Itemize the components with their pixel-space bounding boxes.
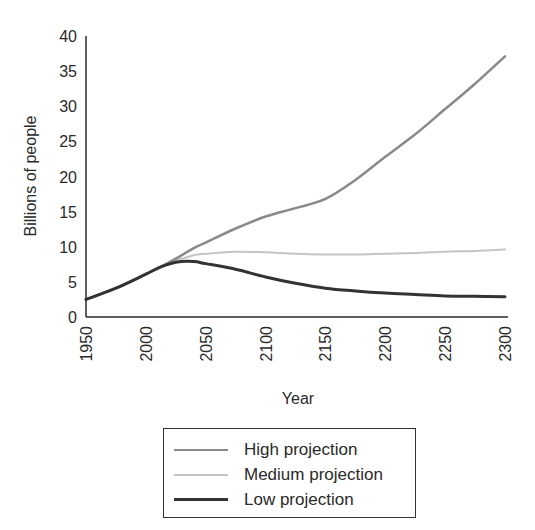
legend-label-medium: Medium projection [244, 462, 383, 487]
y-tick-label: 10 [59, 239, 77, 256]
x-tick-label: 1950 [78, 326, 95, 362]
y-tick-label: 15 [59, 204, 77, 221]
low-projection-line [86, 261, 505, 299]
high-projection-line [86, 56, 505, 299]
legend-item-high: High projection [174, 437, 405, 462]
y-tick-label: 25 [59, 133, 77, 150]
x-tick-label: 2050 [198, 326, 215, 362]
y-tick-label: 20 [59, 169, 77, 186]
x-axis-ticks: 19502000205021002150220022502300 [78, 326, 514, 362]
population-projection-chart: 0510152025303540 19502000205021002150220… [0, 0, 535, 420]
x-tick-label: 2000 [138, 326, 155, 362]
legend-swatch-medium [174, 474, 228, 476]
x-tick-label: 2150 [317, 326, 334, 362]
y-tick-label: 30 [59, 98, 77, 115]
y-axis-title: Billions of people [22, 115, 39, 236]
x-axis-title: Year [282, 390, 315, 407]
legend-swatch-high [174, 449, 228, 451]
x-tick-label: 2300 [497, 326, 514, 362]
y-tick-label: 35 [59, 63, 77, 80]
y-tick-label: 40 [59, 28, 77, 45]
x-tick-label: 2250 [437, 326, 454, 362]
legend-item-medium: Medium projection [174, 462, 405, 487]
legend-item-low: Low projection [174, 487, 405, 512]
legend-label-high: High projection [244, 437, 357, 462]
y-tick-label: 5 [68, 274, 77, 291]
x-tick-label: 2200 [377, 326, 394, 362]
chart-legend: High projection Medium projection Low pr… [163, 428, 416, 518]
medium-projection-line [86, 250, 505, 300]
y-tick-label: 0 [68, 309, 77, 326]
series-lines [86, 56, 505, 299]
legend-swatch-low [174, 498, 228, 501]
legend-label-low: Low projection [244, 487, 354, 512]
y-axis-ticks: 0510152025303540 [59, 28, 77, 326]
x-tick-label: 2100 [258, 326, 275, 362]
